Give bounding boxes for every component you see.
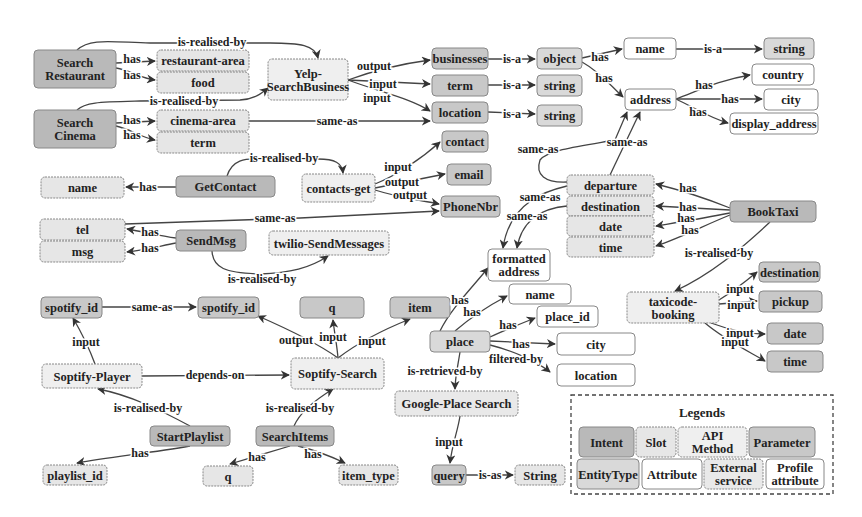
edge-label: is-a (503, 52, 521, 66)
edge-label: same-as (518, 142, 559, 156)
node-sendmsg: SendMsg (176, 230, 246, 251)
legend-item-parameter-label: Parameter (754, 436, 811, 450)
edge-label: is-realised-by (114, 401, 182, 415)
node-item-type-label: item_type (342, 469, 395, 483)
edge-label: input (435, 435, 462, 449)
edge-label: output (279, 333, 313, 347)
edge-label: has (595, 71, 613, 85)
node-yelp: Yelp-SearchBusiness (267, 59, 350, 100)
edge-label: has (512, 337, 530, 351)
edge-label: is-realised-by (685, 246, 753, 260)
node-formatted-address-label: address (499, 265, 540, 279)
node-formatted-address-label: formatted (492, 252, 545, 266)
edge-label: has (141, 241, 159, 255)
node-spotify-id1-label: spotify_id (45, 301, 98, 315)
node-spotify-id2: spotify_id (198, 297, 259, 318)
node-object: object (537, 48, 582, 69)
node-soptify-player-label: Soptify-Player (53, 370, 131, 384)
node-businesses-label: businesses (433, 52, 488, 66)
edge-label: has (304, 447, 322, 461)
legend-item-external-service: Externalservice (704, 459, 763, 489)
edge-label: is-realised-by (250, 151, 318, 165)
node-name-attr-label: name (635, 42, 665, 56)
node-item: item (390, 297, 450, 318)
edge-label: same-as (607, 135, 648, 149)
edge-label: is-as (479, 468, 502, 482)
node-location-param-label: location (439, 106, 481, 120)
node-city2-label: city (586, 338, 606, 352)
edge-label: has (141, 225, 159, 239)
node-string3-label: string (773, 42, 805, 56)
node-term-slot: term (157, 132, 249, 153)
node-string1: string (537, 75, 582, 96)
edge-label: is-realised-by (266, 401, 334, 415)
legend-item-entitytype: EntityType (577, 459, 639, 489)
node-getcontact-label: GetContact (195, 180, 258, 194)
node-food: food (157, 72, 249, 93)
edge-label: same-as (132, 300, 173, 314)
node-restaurant-area: restaurant-area (157, 50, 249, 71)
node-object-label: object (543, 52, 576, 66)
node-location-param: location (432, 102, 488, 123)
edge-label: has (123, 68, 141, 82)
node-destination-slot: destination (567, 196, 654, 216)
node-soptify-search-label: Soptify-Search (298, 367, 377, 381)
node-date-param-label: date (784, 327, 807, 341)
edge-label: has (689, 105, 707, 119)
legend-item-external-service-label: External (710, 461, 757, 475)
node-name-attr: name (624, 38, 676, 59)
node-spotify-id2-label: spotify_id (202, 301, 255, 315)
node-q-param: q (300, 297, 364, 318)
node-contacts-get: contacts-get (302, 174, 375, 202)
node-location-attr-label: location (575, 369, 617, 383)
node-string4: String (515, 465, 565, 485)
node-term-param: term (432, 75, 488, 96)
edge-label: input (727, 298, 754, 312)
node-name-place-label: name (525, 288, 555, 302)
legend: LegendsIntentSlotAPIMethodParameterEntit… (571, 395, 833, 494)
node-time-param-label: time (783, 355, 807, 369)
legend-item-api-method-label: API (702, 429, 724, 443)
edge-label: same-as (507, 209, 548, 223)
legend-item-intent-label: Intent (590, 436, 623, 450)
edge-label: same-as (520, 190, 561, 204)
edge-label: has (679, 181, 697, 195)
node-startplaylist-label: StartPlaylist (157, 430, 224, 444)
edge-label: same-as (255, 211, 296, 225)
node-term-param-label: term (447, 79, 473, 93)
edge-label: is-a (503, 78, 521, 92)
edge-label: is-a (704, 42, 722, 56)
legend-item-profile-attribute-label: Profile (777, 461, 813, 475)
legend-title: Legends (679, 405, 725, 420)
node-search-cinema-label: Cinema (54, 129, 96, 143)
edge-label: filtered-by (489, 352, 543, 366)
node-search-restaurant-label: Restaurant (45, 69, 106, 83)
node-booktaxi: BookTaxi (730, 201, 816, 222)
legend-item-api-method-label: Method (692, 442, 734, 456)
node-query: query (432, 465, 466, 485)
node-pickup: pickup (759, 291, 822, 312)
legend-item-entitytype-label: EntityType (578, 468, 638, 482)
node-city1-label: city (781, 93, 801, 107)
legend-item-parameter: Parameter (749, 427, 815, 457)
node-taxicode-label: taxicode- (649, 295, 698, 309)
node-playlist-id-label: playlist_id (47, 469, 103, 483)
node-search-restaurant: SearchRestaurant (34, 50, 116, 88)
legend-item-profile-attribute: Profileattribute (766, 459, 824, 489)
node-formatted-address: formattedaddress (488, 249, 550, 281)
edge-label: has (695, 78, 713, 92)
edge-label: has (591, 50, 609, 64)
edge-label: is-realised-by (150, 94, 218, 108)
node-twilio: twilio-SendMessages (269, 231, 389, 255)
node-playlist-id: playlist_id (43, 465, 107, 485)
edge-label: has (681, 223, 699, 237)
node-string2-label: string (544, 109, 576, 123)
edge-label: output (357, 59, 391, 73)
node-contact: contact (442, 131, 488, 152)
node-country: country (752, 64, 814, 85)
node-pickup-label: pickup (772, 295, 809, 309)
edge-has (676, 75, 750, 99)
edge-label: has (463, 305, 481, 319)
node-cinema-area-label: cinema-area (170, 114, 236, 128)
node-country-label: country (762, 68, 804, 82)
